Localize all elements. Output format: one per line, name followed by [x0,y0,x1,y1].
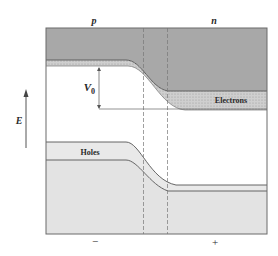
electrons-label: Electrons [215,96,247,105]
energy-axis-label: E [15,115,23,126]
holes-label: Holes [80,148,99,157]
negative-charge-label: − [92,235,98,247]
pn-junction-band-diagram: p n V0 Electrons Holes E − + [0,0,278,256]
v0-label: V0 [84,81,95,96]
n-region-label: n [211,15,217,26]
p-region-label: p [91,15,97,26]
v0-arrowhead-bottom-icon [97,105,101,109]
v0-arrowhead-top-icon [97,67,101,71]
positive-charge-label: + [212,236,218,248]
valence-band-region [46,160,267,234]
energy-axis-arrowhead-icon [24,89,29,97]
conduction-band-region [46,28,267,91]
